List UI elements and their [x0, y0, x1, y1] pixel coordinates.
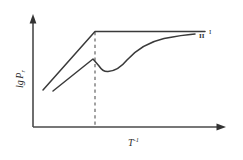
x-axis-label: T-1	[128, 136, 139, 148]
y-axis-label-lg: lg	[14, 80, 25, 88]
curve-2-label: II	[199, 32, 205, 40]
x-axis-arrowhead-icon	[217, 124, 227, 131]
y-axis-label-symbol: P	[14, 73, 25, 80]
curve-1-label: I	[209, 28, 212, 36]
x-axis-label-superscript: -1	[134, 136, 139, 143]
y-axis-label-subscript: r	[19, 70, 26, 73]
svg-text:T-1: T-1	[128, 136, 139, 148]
curve-2-path	[53, 34, 195, 91]
curve-1-path	[43, 32, 205, 91]
y-axis-arrowhead-icon	[30, 14, 37, 24]
schematic-line-chart: I II lgPr T-1	[0, 0, 243, 160]
figure-container: I II lgPr T-1	[0, 0, 243, 160]
y-axis-label: lgPr	[14, 70, 26, 88]
svg-text:lgPr: lgPr	[14, 70, 26, 88]
